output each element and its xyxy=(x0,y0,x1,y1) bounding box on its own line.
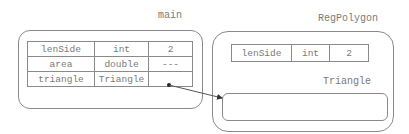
arrow-icon xyxy=(0,0,409,134)
